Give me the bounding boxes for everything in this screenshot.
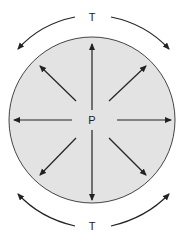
label-center-p: P <box>88 114 95 126</box>
label-bottom-t: T <box>89 220 96 232</box>
label-top-t: T <box>89 11 96 23</box>
pressure-tension-diagram: T P T <box>0 0 183 241</box>
tension-arc-bottom-right-icon <box>111 194 169 226</box>
